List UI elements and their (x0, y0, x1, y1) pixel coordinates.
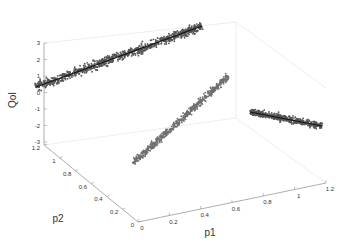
y-tick-label: 0.4 (94, 196, 103, 202)
y-tick-label: 0.2 (110, 209, 119, 215)
axes-box (44, 22, 326, 183)
y-tick-label: 1 (52, 158, 56, 164)
z-axis: -3-2-10123 QoI (7, 40, 47, 145)
y-tick-label: 0 (131, 222, 135, 228)
y-tick-label: 0.6 (79, 184, 88, 190)
z-tick-label: -2 (35, 123, 41, 129)
z-tick-label: 1 (37, 73, 41, 79)
y-tick-label: 1.2 (32, 145, 41, 151)
z-axis-label: QoI (7, 92, 18, 108)
z-tick-label: 3 (37, 40, 41, 46)
x-tick-label: 0 (140, 225, 144, 231)
scatter-3d-chart: -3-2-10123 QoI 1.210.80.60.40.20 p2 00.2… (0, 0, 357, 248)
x-tick-label: 0.2 (169, 219, 178, 225)
z-tick-label: 2 (37, 57, 41, 63)
x-tick-label: 0.4 (200, 212, 209, 218)
x-tick-label: 0.8 (263, 199, 272, 205)
x-tick-label: 1.2 (326, 186, 335, 192)
z-tick-label: -1 (35, 106, 41, 112)
data-points (34, 22, 323, 165)
x-tick-label: 0.6 (232, 206, 241, 212)
y-axis: 1.210.80.60.40.20 p2 (32, 144, 141, 228)
x-tick-label: 1 (297, 193, 301, 199)
x-axis-label: p1 (204, 227, 216, 238)
y-tick-label: 0.8 (63, 171, 72, 177)
y-axis-label: p2 (52, 213, 64, 224)
x-axis: 00.20.40.60.811.2 p1 (138, 180, 335, 238)
